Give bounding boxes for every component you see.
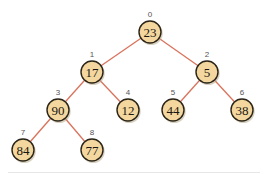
node-index-label: 1 — [90, 50, 95, 59]
tree-node: 124 — [117, 88, 141, 123]
heap-tree-diagram: 23017152903124445386847778 — [0, 0, 267, 174]
tree-node: 445 — [162, 88, 186, 123]
tree-nodes: 23017152903124445386847778 — [12, 10, 255, 163]
node-index-label: 4 — [126, 88, 131, 97]
node-index-label: 7 — [21, 128, 26, 137]
node-index-label: 8 — [90, 128, 95, 137]
tree-node: 230 — [139, 10, 163, 45]
node-index-label: 2 — [205, 50, 210, 59]
node-index-label: 0 — [148, 10, 153, 19]
node-value: 77 — [86, 143, 100, 158]
tree-node: 171 — [81, 50, 105, 85]
tree-node: 903 — [47, 88, 71, 123]
node-index-label: 5 — [171, 88, 176, 97]
node-value: 12 — [122, 103, 135, 118]
node-value: 38 — [236, 103, 249, 118]
tree-node: 386 — [231, 88, 255, 123]
node-value: 84 — [17, 143, 31, 158]
bottom-divider — [8, 172, 260, 173]
tree-node: 52 — [196, 50, 220, 85]
node-index-label: 6 — [240, 88, 245, 97]
node-value: 90 — [52, 103, 65, 118]
tree-node: 847 — [12, 128, 36, 163]
node-value: 44 — [167, 103, 181, 118]
node-value: 17 — [86, 65, 100, 80]
tree-node: 778 — [81, 128, 105, 163]
node-value: 5 — [204, 65, 211, 80]
node-index-label: 3 — [56, 88, 61, 97]
node-value: 23 — [144, 25, 157, 40]
